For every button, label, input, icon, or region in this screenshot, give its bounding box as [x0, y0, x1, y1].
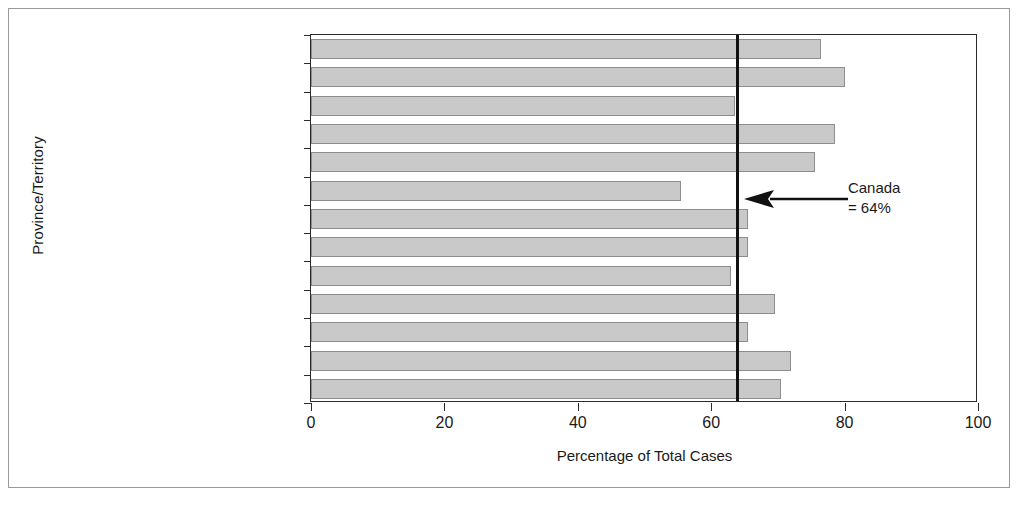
bar	[311, 322, 748, 342]
x-tick-label: 40	[548, 414, 608, 432]
y-tick	[304, 92, 311, 93]
x-tick-label: 80	[815, 414, 875, 432]
bar	[311, 67, 845, 87]
figure-frame: Province/Territory Newfoundland and Labr…	[8, 8, 1010, 488]
y-tick	[304, 120, 311, 121]
canada-reference-line	[736, 35, 739, 401]
y-tick	[304, 346, 311, 347]
x-tick	[845, 403, 846, 411]
y-tick	[304, 148, 311, 149]
bar	[311, 379, 781, 399]
canada-annotation: Canada = 64%	[848, 178, 901, 218]
left-arrow-icon	[740, 189, 850, 209]
x-tick	[444, 403, 445, 411]
bar	[311, 209, 748, 229]
bar	[311, 96, 735, 116]
y-tick	[304, 403, 311, 404]
canada-annotation-line1: Canada	[848, 178, 901, 198]
bar	[311, 237, 748, 257]
y-tick	[304, 261, 311, 262]
bar	[311, 266, 731, 286]
bar	[311, 124, 835, 144]
bar	[311, 351, 791, 371]
y-tick	[304, 375, 311, 376]
y-tick	[304, 205, 311, 206]
x-tick	[711, 403, 712, 411]
x-tick-label: 0	[281, 414, 341, 432]
y-tick	[304, 35, 311, 36]
canada-annotation-line2: = 64%	[848, 198, 901, 218]
y-tick	[304, 233, 311, 234]
bar	[311, 294, 775, 314]
bar	[311, 39, 821, 59]
plot-area: Newfoundland and LabradorPrince Edward I…	[310, 34, 977, 402]
y-tick	[304, 290, 311, 291]
x-tick	[311, 403, 312, 411]
y-tick	[304, 63, 311, 64]
x-tick-label: 100	[948, 414, 1008, 432]
x-tick	[978, 403, 979, 411]
x-tick	[578, 403, 579, 411]
y-tick	[304, 318, 311, 319]
x-tick-label: 60	[681, 414, 741, 432]
x-tick-label: 20	[414, 414, 474, 432]
bar	[311, 181, 681, 201]
y-axis-title: Province/Territory	[29, 106, 46, 286]
y-tick	[304, 177, 311, 178]
x-axis-title: Percentage of Total Cases	[311, 447, 978, 464]
